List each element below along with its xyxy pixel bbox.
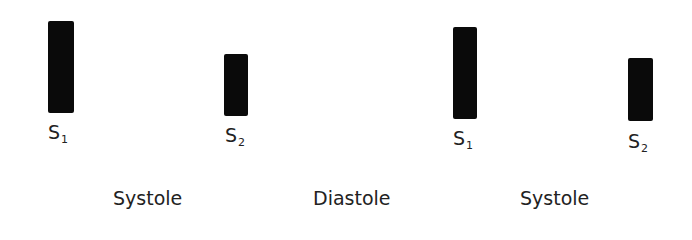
s1-sound-bar [453, 27, 477, 119]
phase-label-systole: Systole [520, 189, 589, 208]
phase-label-diastole: Diastole [313, 189, 391, 208]
s1-letter: S [453, 127, 465, 149]
s1-subscript: 1 [61, 133, 68, 146]
s1-label: S1 [453, 129, 473, 151]
s2-subscript: 2 [641, 142, 648, 155]
s1-label: S1 [48, 123, 68, 145]
s2-sound-bar [224, 54, 248, 116]
s2-letter: S [225, 124, 237, 146]
s2-sound-bar [628, 58, 653, 121]
s2-label: S2 [225, 126, 245, 148]
s1-sound-bar [48, 21, 74, 113]
s2-label: S2 [628, 132, 648, 154]
s2-letter: S [628, 130, 640, 152]
s2-subscript: 2 [238, 136, 245, 149]
s1-subscript: 1 [466, 139, 473, 152]
phase-label-systole: Systole [113, 189, 182, 208]
s1-letter: S [48, 121, 60, 143]
